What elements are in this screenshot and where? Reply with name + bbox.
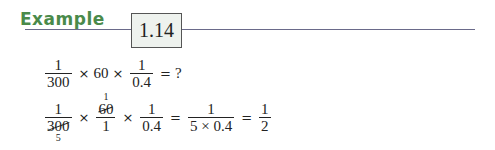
times-operator: × xyxy=(79,110,90,125)
times-operator: × xyxy=(122,110,133,125)
cancelled-numerator: 60 xyxy=(98,101,113,117)
example-label: Example xyxy=(20,9,105,29)
fraction: 1 0.4 xyxy=(130,57,153,90)
equals-sign: = xyxy=(170,110,181,125)
cancel-result: 5 xyxy=(56,130,61,146)
unknown-result: ? xyxy=(175,65,182,82)
example-number-box: 1.14 xyxy=(131,13,182,48)
fraction: 1 2 xyxy=(259,101,271,134)
fraction: 1 300 5 xyxy=(45,101,72,134)
times-operator: × xyxy=(79,66,90,81)
equation-line-1: 1 300 × 60 × 1 0.4 = ? xyxy=(42,57,182,90)
times-operator: × xyxy=(112,66,123,81)
equation-line-2: 1 300 5 × 1 60 1 × 1 0.4 = 1 5 × 0.4 = 1… xyxy=(42,101,274,134)
fraction: 1 5 × 0.4 xyxy=(188,101,234,134)
example-number: 1.14 xyxy=(139,19,174,42)
header-rule xyxy=(25,29,475,30)
fraction: 1 0.4 xyxy=(140,101,163,134)
equals-sign: = xyxy=(160,66,171,81)
equals-sign: = xyxy=(241,110,252,125)
fraction: 1 60 1 xyxy=(96,101,115,134)
fraction: 1 300 xyxy=(45,57,72,90)
term: 60 xyxy=(93,65,108,82)
